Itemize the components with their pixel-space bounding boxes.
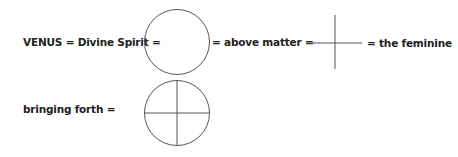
cross-icon [306, 15, 362, 69]
circled-cross-icon [145, 81, 210, 146]
symbols-canvas [0, 0, 458, 157]
circle-icon [145, 10, 210, 75]
